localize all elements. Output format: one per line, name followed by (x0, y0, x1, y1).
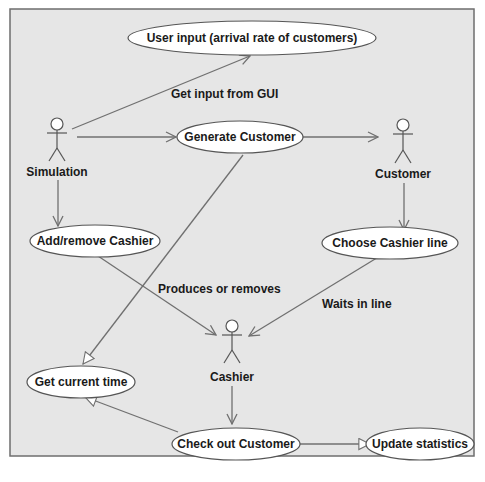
usecase-choose-cashier-line-label: Choose Cashier line (332, 236, 448, 250)
actor-simulation-label: Simulation (26, 165, 87, 179)
usecase-check-out-customer-label: Check out Customer (177, 437, 295, 451)
edge-label-produces-removes: Produces or removes (158, 282, 281, 296)
usecase-generate-customer-label: Generate Customer (184, 130, 296, 144)
use-case-diagram: User input (arrival rate of customers) G… (0, 0, 485, 482)
usecase-add-remove-cashier-label: Add/remove Cashier (37, 234, 154, 248)
actor-customer-label: Customer (375, 167, 431, 181)
usecase-get-current-time-label: Get current time (35, 375, 128, 389)
edge-label-waits-in-line: Waits in line (322, 297, 392, 311)
usecase-user-input-label: User input (arrival rate of customers) (147, 31, 358, 45)
actor-cashier-label: Cashier (210, 370, 254, 384)
edge-label-get-input: Get input from GUI (171, 87, 278, 101)
usecase-update-statistics-label: Update statistics (372, 437, 468, 451)
